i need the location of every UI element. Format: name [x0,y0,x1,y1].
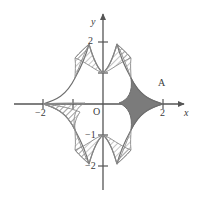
axis-y [98,14,108,190]
axis-label-y: y [91,17,95,27]
region-A-solid [119,78,163,130]
axis-label-x: x [184,108,188,118]
point-A-label: A [158,78,165,88]
y-tick-label-minus2: −2 [85,161,96,171]
x-tick-label-2: 2 [160,108,165,118]
y-tick-label-2: 2 [88,36,93,46]
origin-label: O [93,107,100,117]
y-tick-label-minus1: −1 [85,130,96,140]
figure-canvas: y x O 2 −1 −2 −2 2 A [0,0,198,198]
plot-svg [0,0,198,198]
x-tick-label-minus2: −2 [35,108,46,118]
